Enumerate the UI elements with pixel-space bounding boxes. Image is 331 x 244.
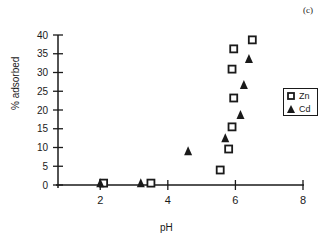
x-tick-label: 4 (165, 194, 171, 206)
legend-label: Cd (299, 104, 311, 114)
zn-data-point (147, 180, 154, 187)
y-tick-label: 30 (37, 67, 49, 78)
zn-data-point (230, 45, 237, 52)
y-tick-label: 5 (42, 161, 48, 172)
cd-data-point (184, 146, 192, 155)
y-tick-label: 35 (37, 48, 49, 59)
cd-data-point (221, 133, 229, 142)
filled-triangle-icon (287, 105, 295, 113)
legend-label: Zn (299, 91, 310, 101)
x-tick-label: 8 (300, 194, 306, 206)
y-tick-label: 10 (37, 142, 49, 153)
cd-data-point (137, 178, 145, 187)
y-tick-label: 25 (37, 86, 49, 97)
legend: Zn Cd (283, 88, 318, 116)
zn-data-point (217, 167, 224, 174)
legend-item-cd: Cd (284, 102, 317, 115)
scatter-plot: 05101520253035402468 (0, 0, 331, 244)
y-tick-label: 0 (42, 180, 48, 191)
zn-data-point (229, 66, 236, 73)
zn-data-point (230, 95, 237, 102)
zn-data-point (229, 123, 236, 130)
zn-data-point (249, 36, 256, 43)
y-tick-label: 15 (37, 123, 49, 134)
cd-data-point (245, 54, 253, 63)
zn-data-point (225, 146, 232, 153)
cd-data-point (240, 80, 248, 89)
open-square-icon (287, 92, 295, 100)
y-tick-label: 20 (37, 105, 49, 116)
x-tick-label: 6 (232, 194, 238, 206)
y-tick-label: 40 (37, 30, 49, 41)
cd-data-point (236, 110, 244, 119)
legend-item-zn: Zn (284, 89, 317, 102)
x-tick-label: 2 (97, 194, 103, 206)
